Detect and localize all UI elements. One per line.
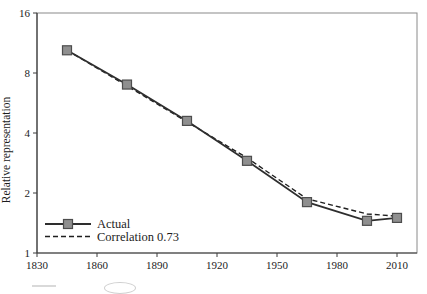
series-actual-marker <box>363 216 372 225</box>
x-axis-tick-label: 1830 <box>26 259 49 271</box>
x-axis-tick-label: 2010 <box>386 259 409 271</box>
legend-actual-label: Actual <box>97 217 131 231</box>
y-axis-tick-label: 1 <box>25 247 31 259</box>
x-axis-tick-label: 1950 <box>266 259 289 271</box>
series-actual-marker <box>393 213 402 222</box>
y-axis-tick-label: 2 <box>25 187 31 199</box>
series-actual-marker <box>243 156 252 165</box>
x-axis-tick-label: 1860 <box>86 259 109 271</box>
y-axis-tick-label: 8 <box>25 67 31 79</box>
legend-fitted-label: Correlation 0.73 <box>97 230 179 244</box>
series-actual-marker <box>183 116 192 125</box>
y-axis-title: Relative representation <box>0 97 13 204</box>
series-actual-line <box>67 50 397 221</box>
x-axis-tick-label: 1980 <box>326 259 349 271</box>
y-axis-tick-label: 16 <box>19 7 31 19</box>
x-axis-tick-label: 1920 <box>206 259 229 271</box>
series-actual-marker <box>123 80 132 89</box>
legend-actual-marker-sample <box>64 220 73 229</box>
series-fitted-line <box>67 50 397 216</box>
y-axis-tick-label: 4 <box>25 127 31 139</box>
x-axis-tick-label: 1890 <box>146 259 169 271</box>
plot-border <box>37 13 417 253</box>
series-actual-marker <box>303 198 312 207</box>
series-actual-marker <box>63 46 72 55</box>
